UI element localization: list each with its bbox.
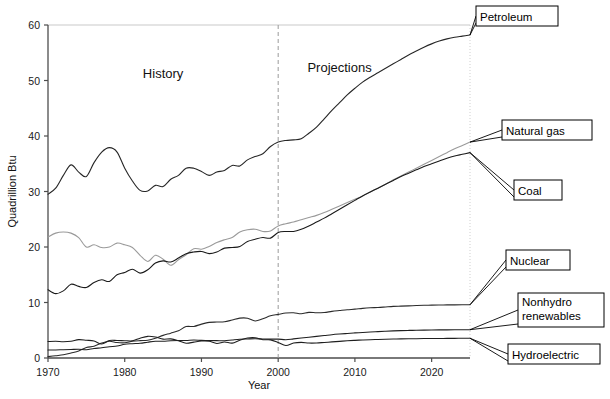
y-tick-label: 60: [28, 19, 40, 31]
x-tick-label: 2000: [267, 366, 291, 378]
callout-leader-line: [470, 130, 502, 142]
x-tick-label: 1990: [190, 366, 214, 378]
callout-coal: Coal: [470, 153, 562, 200]
callout-label: Nonhydro: [522, 296, 572, 308]
callout-label: Nuclear: [510, 255, 550, 267]
callout-label: Natural gas: [506, 125, 565, 137]
x-tick-label: 1980: [113, 366, 137, 378]
y-tick-label: 40: [28, 130, 40, 142]
callout-leader-line: [470, 310, 518, 330]
chart-canvas: 0102030405060197019801990200020102020Yea…: [0, 0, 610, 399]
callout-label: Coal: [518, 185, 542, 197]
y-tick-label: 20: [28, 241, 40, 253]
callout-natural-gas: Natural gas: [470, 120, 592, 142]
callout-petroleum: Petroleum: [470, 6, 558, 35]
x-axis-title: Year: [248, 379, 271, 391]
callout-leader-line: [470, 153, 514, 197]
y-tick-label: 30: [28, 186, 40, 198]
callout-hydroelectric: Hydroelectric: [470, 338, 600, 364]
x-tick-label: 2020: [420, 366, 444, 378]
x-tick-label: 1970: [36, 366, 60, 378]
annotation-projections: Projections: [307, 60, 372, 75]
series-line-coal: [48, 153, 470, 294]
callout-label: renewables: [522, 310, 581, 322]
callout-leader-line: [470, 338, 508, 361]
callout-leader-line: [470, 260, 506, 305]
y-axis-title: Quadrillion Btu: [6, 155, 18, 227]
y-tick-label: 10: [28, 297, 40, 309]
energy-consumption-chart: 0102030405060197019801990200020102020Yea…: [0, 0, 610, 399]
y-tick-label: 50: [28, 75, 40, 87]
x-tick-label: 2010: [343, 366, 367, 378]
callout-label: Petroleum: [480, 11, 532, 23]
callout-label: Hydroelectric: [512, 349, 579, 361]
y-tick-label: 0: [34, 352, 40, 364]
annotation-history: History: [143, 66, 184, 81]
callout-nonhydro-renewables: Nonhydrorenewables: [470, 293, 604, 330]
series-line-natural-gas: [48, 142, 470, 265]
series-line-petroleum: [48, 35, 470, 194]
callout-leader-line: [470, 16, 476, 35]
